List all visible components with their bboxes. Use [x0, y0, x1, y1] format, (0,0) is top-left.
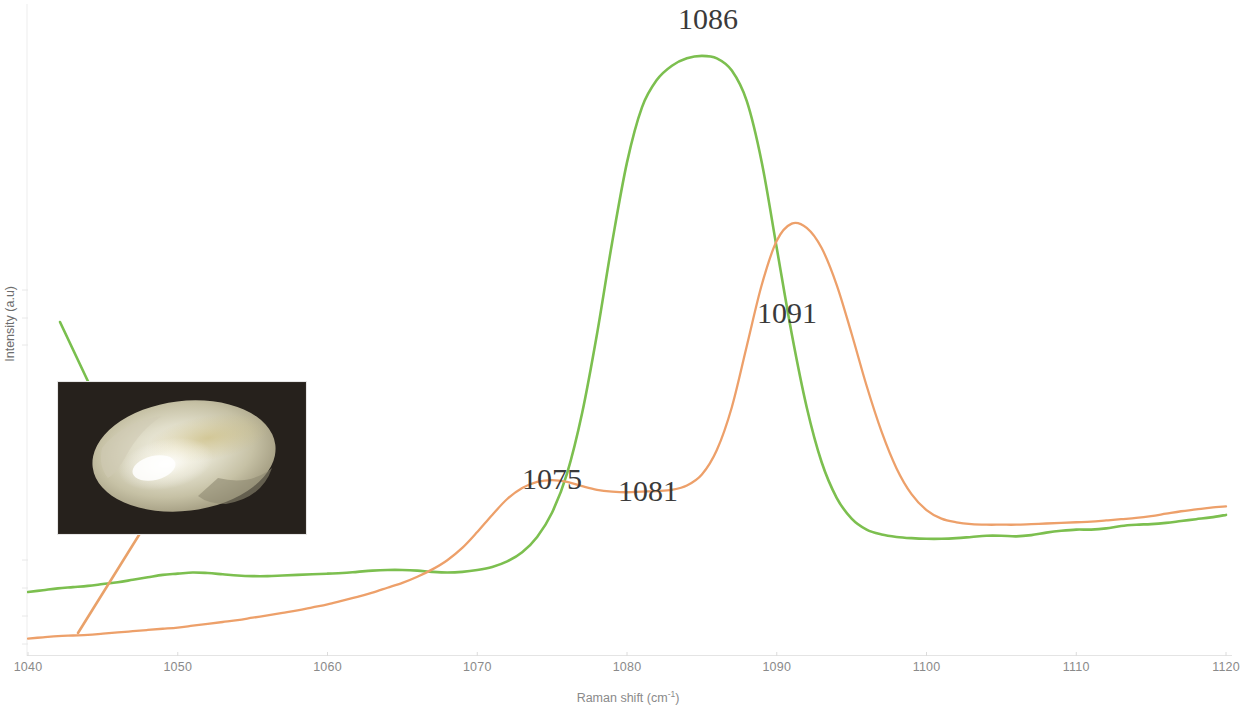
x-tick-label-1090: 1090 — [762, 660, 791, 674]
x-tick-label-1080: 1080 — [613, 660, 642, 674]
x-tick-label-1040: 1040 — [14, 660, 43, 674]
x-axis-title-exponent: -1 — [668, 689, 676, 699]
x-axis-title-close: ) — [675, 691, 679, 705]
x-tick-label-1050: 1050 — [163, 660, 192, 674]
x-axis-title: Raman shift (cm-1) — [577, 689, 680, 705]
x-tick-label-1100: 1100 — [913, 660, 941, 674]
spectra-plot — [0, 0, 1248, 714]
x-tick-label-1070: 1070 — [463, 660, 492, 674]
raman-spectra-figure: Raman shift (cm-1) Intensity (a.u) 10401… — [0, 0, 1248, 714]
peak-label-1081: 1081 — [618, 474, 678, 508]
x-tick-label-1120: 1120 — [1212, 660, 1240, 674]
x-tick-label-1060: 1060 — [313, 660, 342, 674]
peak-label-1086: 1086 — [678, 2, 738, 36]
peak-label-1091: 1091 — [757, 296, 817, 330]
x-tick-label-1110: 1110 — [1063, 660, 1090, 674]
pearl-photo-inset — [57, 381, 307, 535]
peak-label-1075: 1075 — [522, 462, 582, 496]
pearl-photo-graphic — [58, 382, 306, 534]
x-axis-title-text: Raman shift (cm — [577, 691, 668, 705]
y-axis-title: Intensity (a.u) — [3, 286, 17, 362]
